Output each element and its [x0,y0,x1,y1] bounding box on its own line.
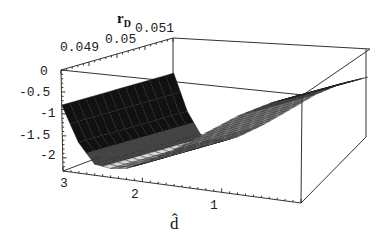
z-tick-label: -1 [40,107,56,120]
x-tick-label: 2 [131,188,139,201]
surface-mesh [62,73,368,168]
z-tick-label: -1.5 [19,129,50,142]
z-tick-label: -0.5 [19,86,50,99]
surface-plot [0,0,387,243]
y-tick-label: 0.049 [60,41,99,54]
x-tick-label: 1 [210,199,218,212]
z-axis-title: rD [117,10,131,29]
x-axis-title: d̂ [170,214,179,234]
z-tick-label: 0 [40,65,48,78]
y-tick-label: 0.05 [105,33,136,46]
z-tick-label: -2 [40,149,56,162]
x-tick-label: 3 [60,177,68,190]
y-tick-label: 0.051 [135,22,174,35]
